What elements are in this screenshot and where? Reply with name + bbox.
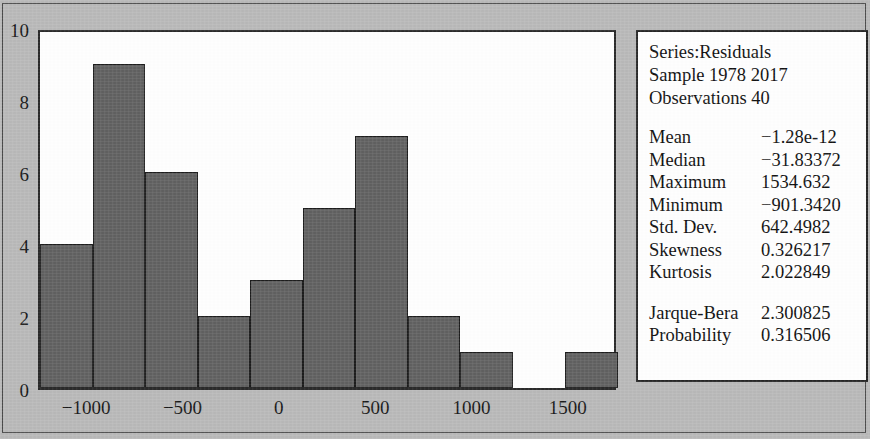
statistic-label: Kurtosis bbox=[649, 261, 761, 284]
histogram-bars bbox=[40, 32, 614, 388]
statistics-header: Series:ResidualsSample 1978 2017Observat… bbox=[649, 41, 866, 110]
statistic-label: Jarque-Bera bbox=[649, 302, 761, 325]
histogram-bar bbox=[460, 352, 513, 388]
statistics-box: Series:ResidualsSample 1978 2017Observat… bbox=[636, 30, 868, 382]
x-axis-tick-label: 500 bbox=[361, 398, 390, 417]
statistic-label: Maximum bbox=[649, 171, 761, 194]
histogram-bar bbox=[565, 352, 618, 388]
statistic-label: Probability bbox=[649, 324, 761, 347]
statistic-value: −901.3420 bbox=[761, 194, 841, 217]
statistic-row: Jarque-Bera2.300825 bbox=[649, 302, 866, 325]
y-axis-tick-label: 8 bbox=[20, 93, 30, 112]
x-axis-tick-label: −500 bbox=[163, 398, 202, 417]
statistic-value: 642.4982 bbox=[761, 216, 830, 239]
x-axis-tick-label: −1000 bbox=[62, 398, 111, 417]
x-axis-tick-label: 1000 bbox=[453, 398, 491, 417]
statistic-label: Skewness bbox=[649, 239, 761, 262]
statistic-row: Std. Dev.642.4982 bbox=[649, 216, 866, 239]
statistics-header-line: Series:Residuals bbox=[649, 41, 866, 64]
statistics-spacer bbox=[649, 110, 866, 126]
statistic-value: 2.300825 bbox=[761, 302, 830, 325]
statistic-row: Mean−1.28e-12 bbox=[649, 126, 866, 149]
statistics-rows: Mean−1.28e-12Median−31.83372Maximum1534.… bbox=[649, 126, 866, 284]
y-axis: 0246810 bbox=[0, 18, 38, 418]
histogram-bar bbox=[250, 280, 303, 388]
y-axis-tick-label: 0 bbox=[20, 381, 30, 400]
statistic-value: −31.83372 bbox=[761, 149, 841, 172]
statistics-gap bbox=[649, 284, 866, 302]
statistics-test-rows: Jarque-Bera2.300825Probability0.316506 bbox=[649, 302, 866, 347]
statistic-label: Std. Dev. bbox=[649, 216, 761, 239]
statistic-value: −1.28e-12 bbox=[761, 126, 837, 149]
y-axis-tick-label: 4 bbox=[20, 237, 30, 256]
histogram-bar bbox=[355, 136, 408, 388]
histogram-bar bbox=[93, 64, 146, 388]
statistic-label: Median bbox=[649, 149, 761, 172]
x-axis-tick-label: 1500 bbox=[549, 398, 587, 417]
statistic-value: 0.326217 bbox=[761, 239, 830, 262]
x-axis-tick-label: 0 bbox=[274, 398, 284, 417]
statistics-header-line: Sample 1978 2017 bbox=[649, 64, 866, 87]
statistics-header-line: Observations 40 bbox=[649, 87, 866, 110]
statistic-value: 0.316506 bbox=[761, 324, 830, 347]
statistic-row: Probability0.316506 bbox=[649, 324, 866, 347]
histogram-bar bbox=[145, 172, 198, 388]
histogram-bar bbox=[408, 316, 461, 388]
histogram-bar bbox=[40, 244, 93, 388]
x-axis: −1000−500050010001500 bbox=[38, 390, 616, 435]
histogram-bar bbox=[198, 316, 251, 388]
histogram-bar bbox=[303, 208, 356, 388]
statistic-row: Maximum1534.632 bbox=[649, 171, 866, 194]
statistic-label: Minimum bbox=[649, 194, 761, 217]
statistic-label: Mean bbox=[649, 126, 761, 149]
histogram-plot-area bbox=[38, 30, 616, 390]
histogram-figure: 0246810 −1000−500050010001500 Series:Res… bbox=[0, 0, 870, 439]
statistic-value: 1534.632 bbox=[761, 171, 830, 194]
statistic-row: Median−31.83372 bbox=[649, 149, 866, 172]
y-axis-tick-label: 6 bbox=[20, 165, 30, 184]
y-axis-tick-label: 10 bbox=[10, 21, 29, 40]
statistic-value: 2.022849 bbox=[761, 261, 830, 284]
statistic-row: Skewness0.326217 bbox=[649, 239, 866, 262]
statistic-row: Minimum−901.3420 bbox=[649, 194, 866, 217]
y-axis-tick-label: 2 bbox=[20, 309, 30, 328]
statistic-row: Kurtosis2.022849 bbox=[649, 261, 866, 284]
